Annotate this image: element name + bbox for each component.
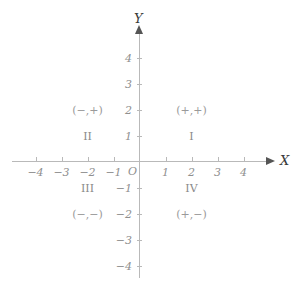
origin-label: O: [128, 166, 137, 177]
x-axis-tick: [166, 157, 167, 162]
y-axis-label: Y: [134, 12, 143, 25]
x-axis-tick: [192, 157, 193, 162]
quadrant-sign-pair: (+,+): [162, 105, 222, 116]
quadrant-sign-pair: (−,+): [58, 105, 118, 116]
quadrant-numeral: I: [162, 131, 222, 142]
x-axis-arrowhead-icon: [266, 157, 275, 165]
x-axis-tick: [218, 157, 219, 162]
y-axis-tick-label: 4: [110, 53, 132, 64]
y-axis-tick: [137, 110, 142, 111]
x-axis-tick-label: −4: [25, 167, 47, 178]
quadrant-numeral: IV: [162, 183, 222, 194]
y-axis-tick: [137, 84, 142, 85]
y-axis-line: [139, 28, 140, 278]
y-axis-tick: [137, 136, 142, 137]
x-axis-tick: [36, 157, 37, 162]
x-axis-tick-label: 1: [155, 167, 177, 178]
y-axis-tick-label: 3: [110, 79, 132, 90]
x-axis-label: X: [280, 154, 289, 167]
x-axis-tick-label: 4: [233, 167, 255, 178]
x-axis-tick: [114, 157, 115, 162]
y-axis-tick: [137, 214, 142, 215]
y-axis-tick: [137, 240, 142, 241]
x-axis-tick-label: 2: [181, 167, 203, 178]
quadrant-numeral: II: [58, 131, 118, 142]
x-axis-tick: [88, 157, 89, 162]
x-axis-tick-label: −2: [77, 167, 99, 178]
quadrant-sign-pair: (−,−): [58, 209, 118, 220]
y-axis-tick: [137, 266, 142, 267]
y-axis-tick: [137, 58, 142, 59]
y-axis-tick-label: −4: [110, 261, 132, 272]
coordinate-plane-figure: X Y O −4−3−2−112344321−1−2−3−4 (+,+)I(−,…: [0, 0, 299, 286]
y-axis-tick: [137, 188, 142, 189]
quadrant-sign-pair: (+,−): [162, 209, 222, 220]
y-axis-tick-label: −3: [110, 235, 132, 246]
y-axis-arrowhead-icon: [135, 25, 143, 34]
x-axis-tick-label: −3: [51, 167, 73, 178]
x-axis-line: [12, 161, 270, 162]
x-axis-tick-label: 3: [207, 167, 229, 178]
x-axis-tick: [62, 157, 63, 162]
quadrant-numeral: III: [58, 183, 118, 194]
x-axis-tick: [244, 157, 245, 162]
x-axis-tick-label: −1: [103, 167, 125, 178]
